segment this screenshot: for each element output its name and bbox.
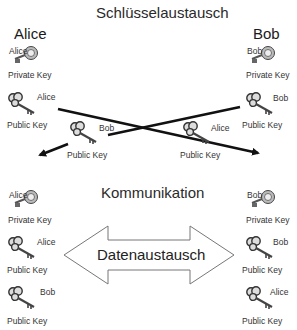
data-exchange-label: Datenaustausch <box>97 246 205 263</box>
key-caption: Public Key <box>242 120 282 130</box>
owner-label: Alice <box>37 237 55 247</box>
title-communication: Kommunikation <box>101 184 204 201</box>
owner-label: Alice <box>9 46 27 56</box>
owner-label: Bob <box>40 287 55 297</box>
owner-label: Bob <box>247 190 262 200</box>
owner-label: Alice <box>37 92 55 102</box>
key-caption: Private Key <box>8 215 51 225</box>
owner-label: Bob <box>247 46 262 56</box>
key-caption: Public Key <box>242 265 282 275</box>
key-caption: Private Key <box>8 70 51 80</box>
key-caption: Public Key <box>7 120 47 130</box>
key-caption: Public Key <box>242 316 282 326</box>
owner-label: Alice <box>9 190 27 200</box>
key-caption: Public Key <box>180 150 220 160</box>
key-caption: Private Key <box>246 215 289 225</box>
owner-label: Bob <box>273 237 288 247</box>
owner-label: Bob <box>273 93 288 103</box>
party-bob: Bob <box>253 25 280 42</box>
key-caption: Public Key <box>7 265 47 275</box>
key-caption: Public Key <box>7 316 47 326</box>
owner-label: Alice <box>211 123 229 133</box>
owner-label: Bob <box>99 123 114 133</box>
key-caption: Public Key <box>67 150 107 160</box>
title-key-exchange: Schlüsselaustausch <box>96 4 229 21</box>
party-alice: Alice <box>14 25 47 42</box>
key-caption: Private Key <box>246 70 289 80</box>
arrow-bob-to-alice <box>40 144 68 155</box>
owner-label: Alice <box>270 287 288 297</box>
